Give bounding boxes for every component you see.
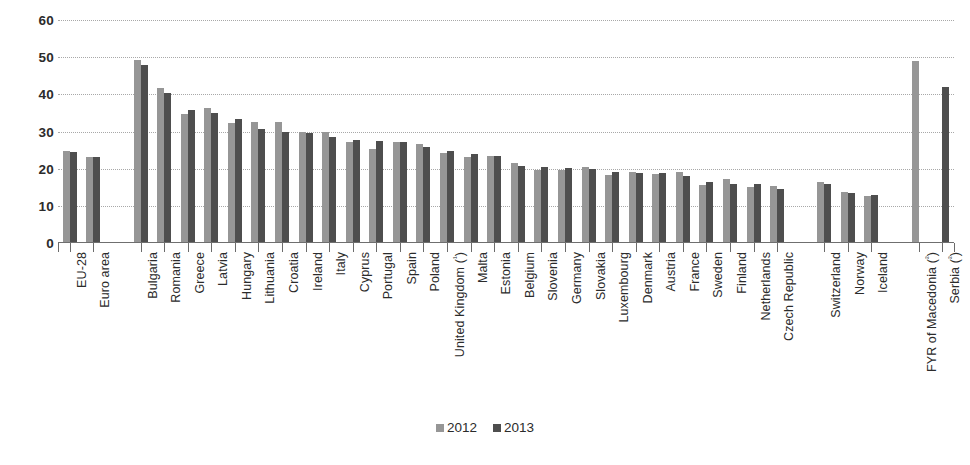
x-axis-category-label: Italy [334,252,348,275]
y-axis-tick-label: 20 [39,161,54,176]
x-axis-category-labels: EU-28Euro areaBulgariaRomaniaGreeceLatvi… [58,252,954,407]
bar-group [435,20,459,243]
bar-2012 [652,174,659,243]
bar-2012 [723,179,730,243]
bar-group [600,20,624,243]
x-axis-tick [871,243,872,252]
bar-2012 [699,185,706,243]
x-axis-category-label: FYR of Macedonia (²) [924,252,939,372]
bar-2013 [730,184,737,243]
bar-2012 [369,149,376,243]
x-axis-category-label: Romania [169,252,183,303]
bar-2013 [164,93,171,243]
bar-2013 [754,184,761,243]
bar-group [294,20,318,243]
y-axis-tick-label: 40 [39,87,54,102]
x-axis-category-label: Czech Republic [782,252,796,341]
x-axis-tick [754,243,755,252]
bar-group [695,20,719,243]
x-axis-category-label: Euro area [98,252,112,308]
x-axis-tick [376,243,377,252]
x-axis-category-label: Hungary [240,252,254,300]
bar-2013 [93,157,100,243]
x-axis-category-label: Switzerland [829,252,843,318]
bar-2013 [824,184,831,243]
bar-group [742,20,766,243]
bar-group [412,20,436,243]
bar-2013 [494,156,501,243]
bar-2012 [817,182,824,243]
bar-2012 [299,132,306,244]
bar-2013 [942,87,949,243]
x-axis-ticks [58,243,954,252]
bar-2013 [188,110,195,243]
x-axis-tick [423,243,424,252]
x-axis-tick [188,243,189,252]
bar-chart: 0102030405060 EU-28Euro areaBulgariaRoma… [0,0,970,465]
x-axis-tick [612,243,613,252]
x-axis-category-label: Cyprus [358,252,372,292]
x-axis-tick [706,243,707,252]
x-axis-category-label: Netherlands [759,252,773,321]
x-axis-category-label: Latvia [216,252,230,286]
bar-2012 [629,172,636,243]
bar-group [82,20,106,243]
x-axis-category-label: France [688,252,702,292]
x-axis-tick [589,243,590,252]
bar-2013 [683,176,690,243]
x-axis-category-label: Norway [853,252,867,295]
bar-2012 [134,60,141,243]
bar-2012 [582,167,589,243]
x-axis-tick [211,243,212,252]
bar-2012 [157,88,164,243]
x-axis-category-label: Belgium [523,252,537,298]
bar-group [553,20,577,243]
x-axis-tick [636,243,637,252]
bar-2013 [659,173,666,243]
x-axis-tick [494,243,495,252]
x-axis-category-label: Denmark [641,252,655,303]
x-axis-tick [730,243,731,252]
legend-item-2013: 2013 [493,420,534,435]
bar-2013 [282,132,289,243]
bar-group [577,20,601,243]
x-axis-tick [164,243,165,252]
x-axis-category-label: EU-28 [75,252,89,288]
bar-2012 [605,175,612,243]
x-axis-category-label: Malta [476,252,490,283]
x-axis-tick [93,243,94,252]
x-axis-tick [659,243,660,252]
x-axis-tick [541,243,542,252]
x-axis-category-label: Ireland [311,252,325,291]
bar-2012 [864,196,871,243]
bar-2012 [322,132,329,243]
x-axis-tick [282,243,283,252]
bar-2012 [511,163,518,243]
x-axis-category-label: Greece [193,252,207,294]
bar-2013 [612,172,619,243]
x-axis-tick [306,243,307,252]
x-axis-tick [777,243,778,252]
bar-2013 [353,140,360,243]
bar-2012 [416,144,423,243]
bar-2012 [770,186,777,243]
bar-2013 [235,119,242,244]
x-axis-category-label: Austria [664,252,678,292]
bar-group [223,20,247,243]
bar-2012 [464,157,471,243]
x-axis-category-label: United Kingdom (¹) [452,252,467,357]
bar-2013 [848,193,855,243]
bar-group [530,20,554,243]
bar-group [624,20,648,243]
x-axis-category-label: Poland [428,252,442,292]
x-axis-tick [683,243,684,252]
x-axis-category-label: Bulgaria [146,252,160,299]
bar-group [930,20,954,243]
bar-group [506,20,530,243]
bar-2012 [181,114,188,243]
bar-2013 [258,129,265,243]
bar-2012 [440,153,447,243]
bar-group [813,20,837,243]
y-axis-tick-label: 0 [46,236,54,251]
bar-2013 [211,113,218,243]
